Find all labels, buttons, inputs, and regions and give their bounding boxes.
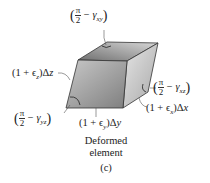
label-dx: (1 + ϵx)Δx [146, 103, 188, 116]
label-gamma-xy: (π2 − γxy) [70, 6, 107, 25]
front-face [66, 60, 127, 108]
caption-tag: (c) [80, 162, 132, 174]
caption-line-1: Deformed [80, 135, 132, 147]
leader-dz [58, 73, 70, 80]
label-dy: (1 + ϵy)Δy [79, 118, 121, 131]
figure-caption: Deformed element (c) [80, 135, 132, 174]
label-gamma-xz: (π2 − γxz) [153, 78, 190, 97]
label-gamma-yz: (π2 − γyz) [14, 109, 51, 128]
label-dz: (1 + ϵz)Δz [12, 68, 53, 81]
caption-line-2: element [80, 147, 132, 159]
